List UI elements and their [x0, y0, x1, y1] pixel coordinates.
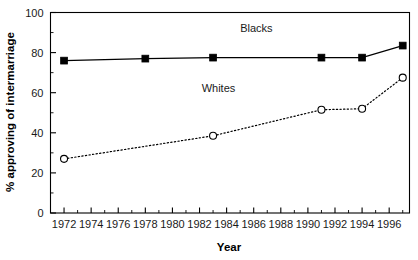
x-tick-label: 1988: [269, 218, 293, 230]
data-point-marker: [61, 155, 68, 162]
x-tick-label: 1980: [160, 218, 184, 230]
series-annotation-whites: Whites: [202, 82, 236, 94]
x-tick-label: 1978: [133, 218, 157, 230]
x-tick-label: 1996: [377, 218, 401, 230]
y-axis-title: % approving of intermarriage: [4, 32, 16, 192]
x-tick-label: 1982: [187, 218, 211, 230]
series-annotation-blacks: Blacks: [240, 22, 273, 34]
y-tick-label: 40: [31, 127, 43, 139]
x-tick-label: 1992: [323, 218, 347, 230]
y-tick-label: 60: [31, 87, 43, 99]
data-point-marker: [359, 105, 366, 112]
data-point-marker: [61, 57, 68, 64]
data-point-marker: [210, 54, 217, 61]
plot-frame: [51, 13, 410, 214]
data-point-marker: [399, 42, 406, 49]
x-tick-label: 1990: [296, 218, 320, 230]
y-tick-label: 80: [31, 47, 43, 59]
data-point-marker: [359, 54, 366, 61]
series-line: [64, 46, 403, 61]
x-axis-title: Year: [217, 241, 242, 253]
x-tick-label: 1976: [106, 218, 130, 230]
x-tick-label: 1974: [79, 218, 103, 230]
y-tick-label: 100: [25, 7, 43, 19]
y-tick-label: 0: [37, 207, 43, 219]
y-tick-label: 20: [31, 167, 43, 179]
x-tick-label: 1972: [52, 218, 76, 230]
data-point-marker: [210, 132, 217, 139]
x-axis: 1972197419761978198019821984198619881990…: [52, 208, 403, 231]
series-blacks: [61, 42, 406, 64]
y-axis: 020406080100: [25, 7, 56, 220]
data-point-marker: [318, 54, 325, 61]
x-tick-label: 1986: [241, 218, 265, 230]
data-series-group: [61, 42, 407, 162]
intermarriage-approval-line-chart: 020406080100 197219741976197819801982198…: [0, 0, 418, 260]
x-tick-label: 1984: [214, 218, 238, 230]
chart-figure: 020406080100 197219741976197819801982198…: [0, 0, 418, 260]
data-point-marker: [399, 74, 406, 81]
x-tick-label: 1994: [350, 218, 374, 230]
data-point-marker: [142, 55, 149, 62]
data-point-marker: [318, 106, 325, 113]
